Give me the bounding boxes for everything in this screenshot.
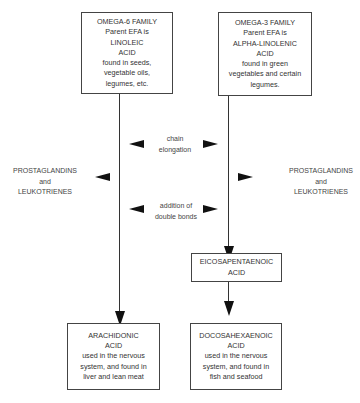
omega3-line: Parent EFA is <box>219 28 311 38</box>
omega6-line: found in seeds, <box>82 58 172 68</box>
arrow-right-icon <box>203 140 218 148</box>
left-prostaglandins-label: PROSTAGLANDINS and LEUKOTRIENES <box>10 166 80 198</box>
omega6-line: Parent EFA is <box>82 27 172 37</box>
arrow-left-icon <box>95 173 110 181</box>
omega3-line: OMEGA-3 FAMILY <box>219 18 311 28</box>
arrow-right-icon <box>238 173 253 181</box>
arrow-left-icon <box>129 205 144 213</box>
omega3-line: ALPHA-LINOLENIC <box>219 39 311 49</box>
omega3-line: legumes. <box>219 80 311 90</box>
omega6-family-box: OMEGA-6 FAMILY Parent EFA is LINOLEIC AC… <box>81 12 173 94</box>
omega3-line: vegetables and certain <box>219 69 311 79</box>
omega3-family-box: OMEGA-3 FAMILY Parent EFA is ALPHA-LINOL… <box>218 12 312 96</box>
docosahexaenoic-acid-box: DOCOSAHEXAENOIC ACID used in the nervous… <box>190 323 282 390</box>
arrow-left-icon <box>129 140 144 148</box>
omega6-line: legumes, etc. <box>82 79 172 89</box>
arrow-right-icon <box>203 205 218 213</box>
omega3-line: found in green <box>219 59 311 69</box>
right-prostaglandins-label: PROSTAGLANDINS and LEUKOTRIENES <box>285 166 357 198</box>
omega6-line: LINOLEIC <box>82 38 172 48</box>
arachidonic-acid-box: ARACHIDONIC ACID used in the nervous sys… <box>67 323 160 390</box>
omega3-pathway-line <box>228 96 229 250</box>
omega6-line: OMEGA-6 FAMILY <box>82 17 172 27</box>
eicosapentaenoic-acid-box: EICOSAPENTAENOIC ACID <box>191 253 282 282</box>
omega6-line: vegetable oils, <box>82 68 172 78</box>
omega6-pathway-line <box>119 94 120 316</box>
double-bonds-label: addition of double bonds <box>148 201 204 222</box>
arrow-down-icon <box>224 301 234 316</box>
omega3-line: ACID <box>219 49 311 59</box>
chain-elongation-label: chain elongation <box>150 134 200 155</box>
omega6-line: ACID <box>82 48 172 58</box>
